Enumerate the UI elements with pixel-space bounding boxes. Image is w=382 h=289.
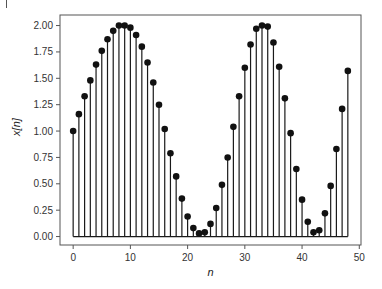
markers-group [70,22,351,236]
stem-marker-23 [201,229,208,236]
stem-marker-20 [184,213,191,220]
stem-marker-30 [242,64,249,71]
x-axis-label: n [207,266,213,278]
stem-marker-40 [299,196,306,203]
stem-marker-47 [339,106,346,113]
stem-marker-39 [293,166,300,173]
stem-marker-38 [287,130,294,137]
stem-marker-36 [276,63,283,70]
stem-marker-4 [93,61,100,68]
stem-marker-26 [219,182,226,189]
stem-marker-29 [236,93,243,100]
y-tick-label: 1.75 [34,46,54,57]
stem-marker-24 [207,221,214,228]
stem-marker-1 [76,111,83,118]
stem-marker-3 [87,77,94,84]
stems-group [73,26,348,237]
x-tick-label: 40 [296,252,308,263]
stem-marker-33 [259,22,266,29]
stem-marker-10 [127,24,134,31]
stem-marker-13 [144,59,151,66]
stem-marker-27 [224,154,231,161]
y-axis-ticks: 0.000.250.500.751.001.251.501.752.00 [34,20,60,242]
y-tick-label: 2.00 [34,20,54,31]
y-tick-label: 1.25 [34,99,54,110]
stem-marker-28 [230,124,237,131]
stem-marker-6 [104,36,111,43]
stem-marker-42 [310,229,317,236]
stem-marker-48 [345,68,352,75]
stem-marker-7 [110,28,117,35]
x-tick-label: 10 [125,252,137,263]
y-tick-label: 0.00 [34,231,54,242]
stem-marker-31 [247,41,254,48]
stem-marker-34 [264,23,271,30]
stem-marker-14 [150,79,157,86]
stem-marker-15 [156,101,163,108]
stem-chart: 01020304050 0.000.250.500.751.001.251.50… [0,0,382,289]
y-axis-label: x[n] [10,117,22,137]
stem-marker-46 [333,146,340,153]
x-tick-label: 20 [182,252,194,263]
stem-marker-0 [70,128,77,135]
stem-marker-32 [253,25,260,32]
y-tick-label: 1.50 [34,73,54,84]
stem-marker-22 [196,230,203,237]
y-tick-label: 0.25 [34,205,54,216]
stem-marker-9 [121,22,128,29]
stem-marker-16 [161,126,168,133]
y-tick-label: 0.75 [34,152,54,163]
stem-marker-43 [316,227,323,234]
stem-marker-35 [270,39,277,46]
stem-marker-25 [213,205,220,212]
stem-marker-19 [179,195,186,202]
stem-marker-11 [133,32,140,39]
stem-marker-12 [139,43,146,50]
stem-marker-44 [322,210,329,217]
stem-marker-18 [173,173,180,180]
stem-marker-45 [327,183,334,190]
x-tick-label: 50 [354,252,366,263]
y-tick-label: 0.50 [34,178,54,189]
stem-marker-5 [98,48,105,55]
x-tick-label: 30 [239,252,251,263]
x-axis-ticks: 01020304050 [70,245,365,263]
stem-marker-2 [81,93,88,100]
x-tick-label: 0 [70,252,76,263]
stem-marker-37 [282,95,289,102]
y-tick-label: 1.00 [34,126,54,137]
stem-marker-41 [304,218,311,225]
stem-marker-21 [190,225,197,232]
stem-marker-17 [167,150,174,157]
plot-frame [60,15,361,245]
stem-marker-8 [116,22,123,29]
